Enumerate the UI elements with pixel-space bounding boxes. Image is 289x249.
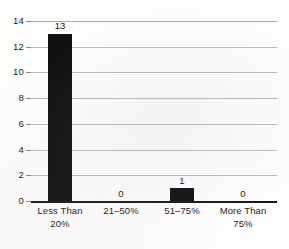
ytick-label-12: 12 — [0, 42, 24, 52]
ytick-label-10: 10 — [0, 67, 24, 77]
xlabel-more-than-75: More Than 75% — [200, 205, 286, 230]
ytick-label-14: 14 — [0, 16, 24, 26]
xlabel-line1: Less Than — [37, 205, 82, 216]
bar-chart-figure: 14 12 10 8 6 4 2 0 13 0 1 0 Less Than 20… — [0, 0, 289, 249]
ytick-dash-12 — [26, 47, 31, 48]
ytick-dash-8 — [26, 98, 31, 99]
bar-value-21-50: 0 — [101, 188, 141, 199]
ytick-label-4: 4 — [0, 145, 24, 155]
bar-51-75 — [170, 188, 194, 201]
xlabel-line2: 75% — [200, 218, 286, 231]
bar-value-more-than-75: 0 — [223, 188, 263, 199]
xlabel-line2: 20% — [17, 218, 103, 231]
ytick-dash-6 — [26, 124, 31, 125]
ytick-dash-14 — [26, 21, 31, 22]
ytick-label-6: 6 — [0, 119, 24, 129]
plot-area — [31, 21, 277, 201]
bar-value-51-75: 1 — [162, 175, 202, 186]
xlabel-line1: More Than — [220, 205, 267, 216]
x-axis-line — [31, 201, 277, 203]
ytick-label-8: 8 — [0, 93, 24, 103]
bar-value-less-than-20: 13 — [40, 20, 80, 31]
ytick-dash-0 — [26, 201, 31, 202]
ytick-label-2: 2 — [0, 170, 24, 180]
xlabel-line1: 21–50% — [103, 205, 138, 216]
ytick-dash-10 — [26, 72, 31, 73]
ytick-dash-4 — [26, 150, 31, 151]
xlabel-line1: 51–75% — [164, 205, 199, 216]
ytick-dash-2 — [26, 175, 31, 176]
bar-less-than-20 — [48, 34, 72, 201]
